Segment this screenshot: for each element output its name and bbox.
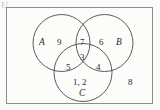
set-label-b: B — [116, 38, 122, 47]
region-a-and-b-only: 7 — [80, 38, 85, 47]
set-label-a: A — [39, 38, 45, 47]
venn-diagram-figure: U A B C 9 7 6 3 5 4 1, 2 8 — [0, 0, 160, 110]
region-outside-all: 8 — [128, 78, 133, 87]
region-c-only: 1, 2 — [73, 78, 87, 87]
region-a-and-c-only: 5 — [66, 63, 71, 72]
region-b-and-c-only: 4 — [96, 63, 101, 72]
region-b-only: 6 — [99, 38, 104, 47]
region-a-only: 9 — [57, 38, 62, 47]
set-label-c: C — [79, 89, 85, 98]
region-a-and-b-and-c: 3 — [80, 53, 85, 62]
